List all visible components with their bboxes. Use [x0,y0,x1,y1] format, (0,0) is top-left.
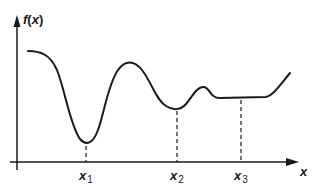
marker-x3-var: x [234,168,241,183]
y-axis-label: f(x) [23,12,43,27]
marker-x1-var: x [79,168,86,183]
marker-x1-subscript: 1 [87,174,93,185]
marker-x2-label: x2 [170,168,184,183]
marker-x3-label: x3 [234,168,248,183]
y-label-var: x [32,12,39,27]
x-label-var: x [300,164,307,179]
y-axis-arrow-icon [14,15,21,27]
marker-x2-var: x [170,168,177,183]
marker-x3-subscript: 3 [242,174,248,185]
x-axis-label: x [300,164,307,179]
function-curve [28,51,290,143]
y-label-close-paren: ) [39,12,43,27]
marker-x1-label: x1 [79,168,93,183]
function-plot [0,0,317,190]
x-axis-arrow-icon [286,158,299,166]
marker-x2-subscript: 2 [178,174,184,185]
